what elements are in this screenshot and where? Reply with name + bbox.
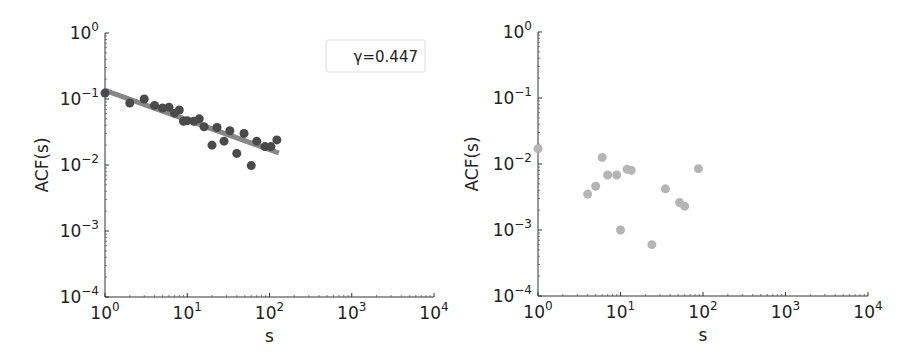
data-point: [200, 122, 209, 131]
data-point: [140, 95, 149, 104]
y-tick-label: 10−3: [60, 218, 99, 241]
data-point: [213, 123, 222, 132]
data-point: [534, 144, 543, 153]
data-point: [603, 171, 612, 180]
x-axis-label: s: [265, 326, 274, 346]
data-point: [591, 182, 600, 191]
data-point: [240, 129, 249, 138]
y-axis-label: ACF(s): [462, 136, 482, 191]
x-tick-label: 101: [173, 300, 202, 323]
left-panel-acf-powerlaw: 10010110210310410−410−310−210−1100sACF(s…: [32, 20, 449, 346]
data-point: [247, 161, 256, 170]
data-point: [266, 142, 275, 151]
data-point: [125, 98, 134, 107]
y-tick-label: 100: [70, 20, 99, 43]
data-point: [583, 190, 592, 199]
x-tick-label: 100: [523, 299, 552, 322]
figure: 10010110210310410−410−310−210−1100sACF(s…: [0, 0, 908, 360]
y-tick-label: 10−1: [60, 86, 99, 109]
data-point: [272, 135, 281, 144]
data-point: [225, 126, 234, 135]
x-tick-label: 103: [337, 300, 366, 323]
y-tick-label: 100: [503, 19, 532, 42]
x-tick-label: 102: [688, 299, 717, 322]
data-point: [616, 226, 625, 235]
data-point: [647, 240, 656, 249]
y-axis-label: ACF(s): [32, 137, 52, 192]
data-point: [101, 89, 110, 98]
data-point: [661, 184, 670, 193]
data-point: [220, 137, 229, 146]
x-tick-label: 104: [853, 299, 882, 322]
y-tick-label: 10−2: [493, 151, 532, 174]
x-tick-label: 100: [90, 300, 119, 323]
data-point: [598, 153, 607, 162]
x-tick-label: 104: [419, 300, 448, 323]
data-point: [627, 166, 636, 175]
x-tick-label: 103: [771, 299, 800, 322]
data-point: [252, 137, 261, 146]
data-point: [150, 101, 159, 110]
y-tick-label: 10−1: [493, 85, 532, 108]
data-point: [694, 164, 703, 173]
data-point: [680, 202, 689, 211]
data-point: [612, 171, 621, 180]
y-tick-label: 10−3: [493, 217, 532, 240]
data-point: [195, 114, 204, 123]
data-point: [175, 106, 184, 115]
figure-svg: 10010110210310410−410−310−210−1100sACF(s…: [0, 0, 908, 360]
gamma-annotation: γ=0.447: [354, 48, 418, 66]
data-point: [232, 149, 241, 158]
data-point: [208, 141, 217, 150]
right-panel-acf-scatter: 10010110210310410−410−310−210−1100sACF(s…: [462, 19, 883, 345]
x-tick-label: 101: [606, 299, 635, 322]
x-tick-label: 102: [255, 300, 284, 323]
x-axis-label: s: [699, 325, 708, 345]
y-tick-label: 10−2: [60, 152, 99, 175]
